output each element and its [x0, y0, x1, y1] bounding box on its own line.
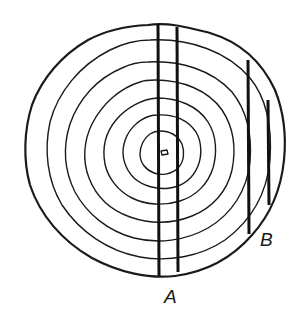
cut-b-line-right [268, 100, 269, 205]
cut-b-line-left [248, 60, 249, 234]
cut-a-line-right [177, 27, 178, 272]
cut-b-label: B [260, 229, 273, 251]
growth-ring-5 [123, 115, 201, 189]
cut-a-label: A [164, 286, 177, 308]
cut-a-line-left [158, 24, 159, 276]
tree-cross-section-diagram [0, 0, 307, 321]
pith-center [161, 150, 168, 155]
